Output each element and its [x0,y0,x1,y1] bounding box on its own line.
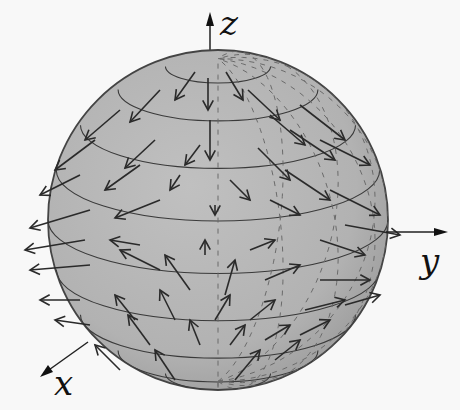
sphere-vector-field-diagram: z y x [0,0,460,410]
z-axis [206,12,214,52]
x-axis-label: x [54,366,73,400]
sphere-figure [0,0,460,410]
z-axis-label: z [220,6,238,40]
y-axis-label: y [420,244,439,278]
